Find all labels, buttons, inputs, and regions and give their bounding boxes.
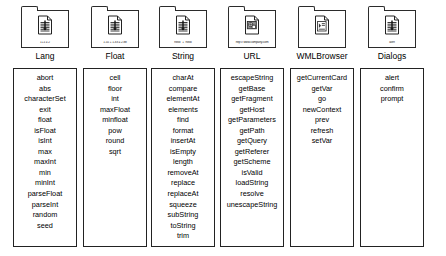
method-item: alert xyxy=(361,73,423,84)
folder-icon[interactable]: 1.55 + 1.33 = 2.88 xyxy=(91,6,139,48)
library-column: http:// www.company.comURLescapeStringge… xyxy=(217,0,287,256)
wml-card-icon xyxy=(315,15,330,35)
library-title: Dialogs xyxy=(357,51,427,62)
method-item: resolve xyxy=(221,189,283,200)
method-item: maxFloat xyxy=(84,105,146,116)
folder-glyph-caption: "hello" + "hello" xyxy=(161,41,205,45)
library-title: Lang xyxy=(10,51,80,62)
method-item: getQuery xyxy=(221,136,283,147)
method-item: unescapeString xyxy=(221,200,283,211)
library-column: 1+1 = 2LangabortabscharacterSetexitfloat… xyxy=(10,0,80,256)
method-item: exit xyxy=(14,105,76,116)
folder-body: alert xyxy=(368,10,416,48)
method-item: round xyxy=(84,136,146,147)
library-title: WMLBrowser xyxy=(287,51,357,62)
method-item: newContext xyxy=(291,105,353,116)
document-icon xyxy=(176,15,191,35)
method-item: replace xyxy=(152,178,214,189)
folder-icon[interactable]: alert xyxy=(368,6,416,48)
method-item: compare xyxy=(152,84,214,95)
method-item: parseInt xyxy=(14,200,76,211)
library-column: 1.55 + 1.33 = 2.88FloatcellfloorintmaxFl… xyxy=(80,0,150,256)
method-item: float xyxy=(14,115,76,126)
folder-tab xyxy=(159,6,176,11)
library-title: URL xyxy=(217,51,287,62)
method-item: elementAt xyxy=(152,94,214,105)
method-list-box: charAtcompareelementAtelementsfindformat… xyxy=(151,68,215,247)
method-item: find xyxy=(152,115,214,126)
folder-glyph-caption: alert xyxy=(370,41,414,45)
method-list-box: alertconfirmprompt xyxy=(360,68,424,247)
method-item: isFloat xyxy=(14,126,76,137)
method-item: int xyxy=(84,94,146,105)
method-item: minfloat xyxy=(84,115,146,126)
method-item: abort xyxy=(14,73,76,84)
method-item: seed xyxy=(14,221,76,232)
folder-body: "hello" + "hello" xyxy=(159,10,207,48)
library-title: Float xyxy=(80,51,150,62)
library-column: "hello" + "hello"StringcharAtcompareelem… xyxy=(148,0,218,256)
method-item: removeAt xyxy=(152,168,214,179)
folder-icon[interactable]: http:// www.company.com xyxy=(228,6,276,48)
method-item: getReferer xyxy=(221,147,283,158)
library-column: alertDialogsalertconfirmprompt xyxy=(357,0,427,256)
web-page-icon xyxy=(245,15,260,35)
method-item: getCurrentCard xyxy=(291,73,353,84)
folder-tab xyxy=(91,6,108,11)
method-item: parseFloat xyxy=(14,189,76,200)
method-item: abs xyxy=(14,84,76,95)
method-item: prev xyxy=(291,115,353,126)
method-item: length xyxy=(152,157,214,168)
folder-icon[interactable] xyxy=(298,6,346,48)
method-item: squeeze xyxy=(152,200,214,211)
method-item: elements xyxy=(152,105,214,116)
method-list-box: getCurrentCardgetVargonewContextprevrefr… xyxy=(290,68,354,247)
method-item: getScheme xyxy=(221,157,283,168)
folder-glyph-caption: 1.55 + 1.33 = 2.88 xyxy=(93,41,137,45)
document-icon xyxy=(38,15,53,35)
method-item: prompt xyxy=(361,94,423,105)
method-item: random xyxy=(14,210,76,221)
method-item: charAt xyxy=(152,73,214,84)
method-item: pow xyxy=(84,126,146,137)
method-item: getHost xyxy=(221,105,283,116)
folder-icon[interactable]: "hello" + "hello" xyxy=(159,6,207,48)
folder-tab xyxy=(21,6,38,11)
method-item: isEmpty xyxy=(152,147,214,158)
method-item: setVar xyxy=(291,136,353,147)
method-item: getFragment xyxy=(221,94,283,105)
method-item: toString xyxy=(152,221,214,232)
folder-body: 1.55 + 1.33 = 2.88 xyxy=(91,10,139,48)
method-item: getParameters xyxy=(221,115,283,126)
method-item: go xyxy=(291,94,353,105)
folder-tab xyxy=(228,6,245,11)
method-item: loadString xyxy=(221,178,283,189)
method-list-box: cellfloorintmaxFloatminfloatpowroundsqrt xyxy=(83,68,147,247)
method-item: max xyxy=(14,147,76,158)
method-list-box: escapeStringgetBasegetFragmentgetHostget… xyxy=(220,68,284,247)
folder-body xyxy=(298,10,346,48)
method-item: subString xyxy=(152,210,214,221)
method-item: cell xyxy=(84,73,146,84)
method-item: replaceAt xyxy=(152,189,214,200)
document-icon xyxy=(385,15,400,35)
folder-body: http:// www.company.com xyxy=(228,10,276,48)
method-item: insertAt xyxy=(152,136,214,147)
folder-tab xyxy=(368,6,385,11)
library-column: WMLBrowsergetCurrentCardgetVargonewConte… xyxy=(287,0,357,256)
library-diagram: 1+1 = 2LangabortabscharacterSetexitfloat… xyxy=(0,0,446,256)
method-item: characterSet xyxy=(14,94,76,105)
library-title: String xyxy=(148,51,218,62)
method-item: refresh xyxy=(291,126,353,137)
method-item: getVar xyxy=(291,84,353,95)
folder-icon[interactable]: 1+1 = 2 xyxy=(21,6,69,48)
method-list-box: abortabscharacterSetexitfloatisFloatisIn… xyxy=(13,68,77,247)
method-item: confirm xyxy=(361,84,423,95)
method-item: min xyxy=(14,168,76,179)
method-item: getPath xyxy=(221,126,283,137)
method-item: floor xyxy=(84,84,146,95)
method-item: format xyxy=(152,126,214,137)
folder-tab xyxy=(298,6,315,11)
method-item: maxInt xyxy=(14,157,76,168)
method-item: isValid xyxy=(221,168,283,179)
